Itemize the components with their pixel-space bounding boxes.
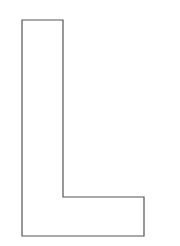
letter-l-outline-path	[22, 20, 144, 236]
letter-l-graphic: Outlined uppercase letter L shape on a p…	[0, 0, 180, 246]
letter-worksheet-canvas: Letter L Outline Outlined uppercase lett…	[0, 0, 180, 246]
